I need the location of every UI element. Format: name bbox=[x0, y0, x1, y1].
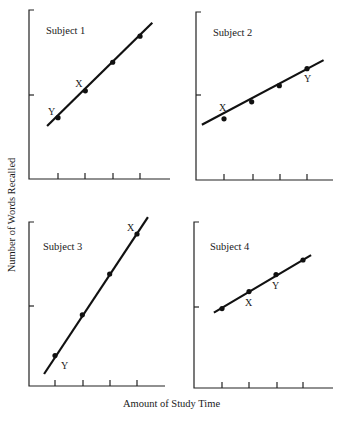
point-annotation: X bbox=[245, 297, 253, 308]
point-annotation: Y bbox=[48, 106, 55, 117]
point-annotation: X bbox=[75, 78, 83, 89]
point-annotation: Y bbox=[272, 280, 279, 291]
data-point bbox=[246, 289, 251, 294]
subplot-title: Subject 2 bbox=[213, 27, 252, 38]
data-point bbox=[249, 99, 254, 104]
point-annotation: X bbox=[219, 102, 227, 113]
data-point bbox=[221, 116, 226, 121]
figure-canvas: Subject 1YX Subject 2XY Subject 3YX Subj… bbox=[0, 0, 343, 421]
data-point bbox=[304, 66, 309, 71]
subplot-subject-3: Subject 3YX bbox=[29, 217, 165, 386]
subplot-subject-2: Subject 2XY bbox=[196, 12, 333, 180]
subplot-title: Subject 3 bbox=[43, 241, 82, 252]
data-point bbox=[83, 88, 88, 93]
data-point bbox=[219, 306, 224, 311]
data-point bbox=[107, 271, 112, 276]
point-annotation: X bbox=[127, 222, 135, 233]
data-point bbox=[277, 83, 282, 88]
data-point bbox=[52, 353, 57, 358]
data-point bbox=[80, 312, 85, 317]
subplot-subject-4: Subject 4XY bbox=[194, 222, 333, 388]
y-axis-title-text: Number of Words Recalled bbox=[6, 158, 17, 273]
data-point bbox=[137, 34, 142, 39]
data-point bbox=[55, 115, 60, 120]
subplot-title: Subject 4 bbox=[210, 241, 250, 252]
y-axis-title: Number of Words Recalled bbox=[2, 130, 20, 300]
subplot-title: Subject 1 bbox=[46, 25, 85, 36]
data-point bbox=[110, 60, 115, 65]
data-line bbox=[47, 23, 152, 126]
data-point bbox=[273, 272, 278, 277]
subplot-subject-1: Subject 1YX bbox=[29, 10, 170, 179]
data-point bbox=[134, 231, 139, 236]
data-point bbox=[300, 257, 305, 262]
point-annotation: Y bbox=[61, 360, 68, 371]
data-line bbox=[214, 255, 311, 313]
x-axis-title: Amount of Study Time bbox=[0, 398, 343, 409]
point-annotation: Y bbox=[304, 73, 311, 84]
